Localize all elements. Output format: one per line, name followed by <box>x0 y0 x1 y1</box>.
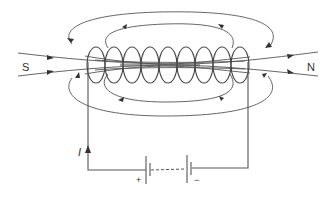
arrow-icon <box>219 96 224 101</box>
current-label: I <box>78 146 81 158</box>
positive-terminal-label: + <box>136 175 141 185</box>
field-loop-bottom-outer <box>69 72 273 116</box>
battery <box>146 155 191 184</box>
field-loop-bottom-inner <box>104 74 233 102</box>
current-arrow-icon <box>85 145 91 153</box>
solenoid-diagram: S N I + − <box>0 0 333 197</box>
arrow-icon <box>75 72 80 78</box>
arrow-icon <box>118 97 124 102</box>
north-pole-label: N <box>307 61 315 73</box>
axial-field-lines <box>18 52 318 76</box>
field-loop-top-inner <box>106 24 234 48</box>
arrow-icon <box>262 73 267 78</box>
field-loop-top-outer <box>67 12 273 48</box>
arrow-icon <box>47 55 54 60</box>
negative-terminal-label: − <box>194 175 199 185</box>
south-pole-label: S <box>22 61 29 73</box>
arrow-icon <box>67 38 74 43</box>
